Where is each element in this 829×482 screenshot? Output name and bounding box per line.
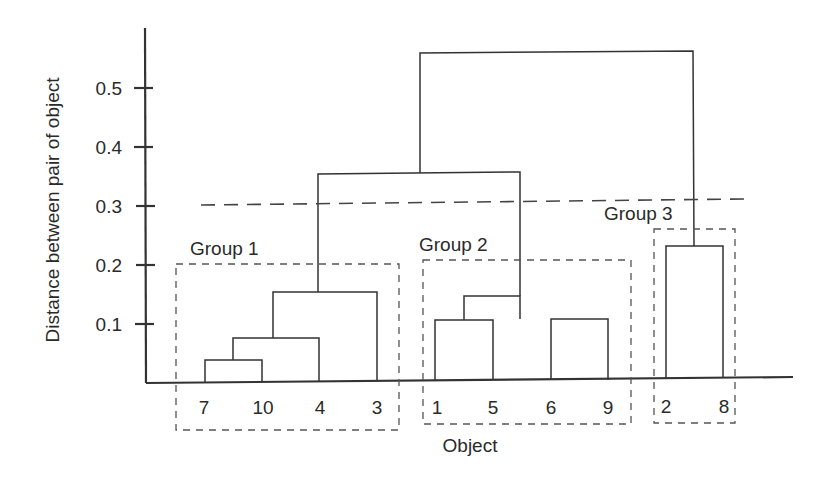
x-axis-label: Object [443,435,499,456]
merge-1-5 [435,320,493,381]
group-labels: Group 1 Group 2 Group 3 [190,203,673,259]
tick-label: 0.5 [96,78,122,99]
leaf-label: 8 [719,396,730,417]
leaf-label: 6 [546,397,557,418]
leaf-label: 10 [252,397,273,418]
leaf-label: 4 [315,397,326,418]
merge-7-10 [205,360,262,382]
x-axis [146,377,793,383]
leaf-labels: 7 10 4 3 1 5 6 9 2 8 [199,396,730,418]
tick-label: 0.1 [96,314,122,335]
merge-6-9 [551,319,608,380]
y-tick-labels: 0.5 0.4 0.3 0.2 0.1 [96,78,123,335]
group2-label: Group 2 [419,234,488,255]
merge-g1-3 [273,292,377,381]
tick-label: 0.4 [96,137,123,158]
leaf-label: 7 [199,397,210,418]
leaf-label: 3 [372,397,383,418]
merge-g2 [464,296,520,320]
leaf-label: 5 [488,397,499,418]
merge-2-8 [666,246,723,379]
leaf-label: 1 [432,397,443,418]
group1-label: Group 1 [190,238,259,259]
group2-box [423,260,631,424]
group1-box [176,264,399,430]
leaf-label: 2 [661,396,672,417]
tick-label: 0.2 [96,255,122,276]
leaf-label: 9 [603,397,614,418]
dendrogram-chart: 0.5 0.4 0.3 0.2 0.1 Distance between pai… [0,0,829,482]
group3-label: Group 3 [604,203,673,224]
y-axis-label: Distance between pair of object [42,77,63,343]
tick-label: 0.3 [96,196,122,217]
